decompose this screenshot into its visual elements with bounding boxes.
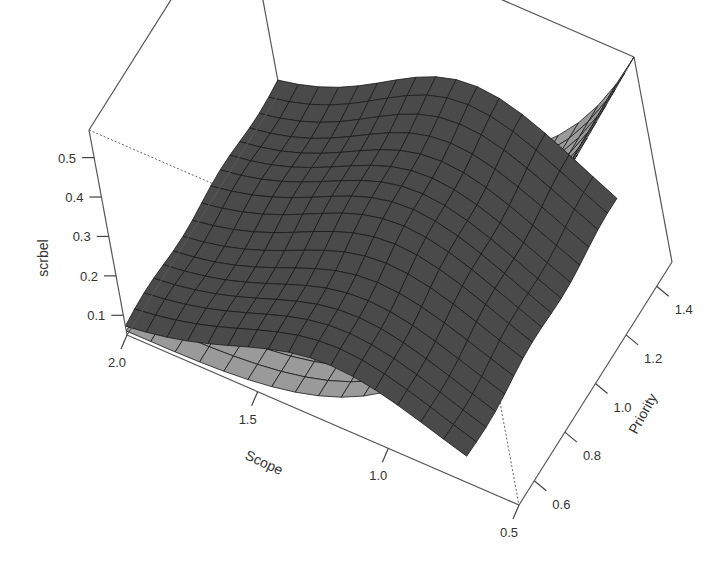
box-edge bbox=[242, 0, 634, 57]
z-tick-label: 0.4 bbox=[65, 190, 83, 205]
x-tick-label: 1.0 bbox=[369, 468, 387, 483]
box-edge bbox=[242, 0, 280, 92]
axis-tick bbox=[121, 335, 127, 349]
surface-facet bbox=[589, 84, 617, 122]
y-tick-label: 0.6 bbox=[552, 497, 570, 512]
axis-tick bbox=[626, 335, 638, 345]
axis-tick bbox=[382, 448, 388, 462]
axis-tick bbox=[513, 505, 519, 519]
surface-dark bbox=[125, 77, 617, 456]
y-tick-label: 1.2 bbox=[644, 351, 662, 366]
x-axis-title: Scope bbox=[243, 447, 286, 478]
box-edge bbox=[634, 57, 672, 262]
z-tick-label: 0.1 bbox=[87, 308, 105, 323]
z-axis-title: scrbel bbox=[35, 239, 51, 276]
y-tick-label: 0.8 bbox=[583, 448, 601, 463]
axis-tick bbox=[252, 392, 258, 406]
axis-tick bbox=[657, 286, 669, 296]
axis-tick bbox=[534, 481, 546, 491]
x-tick-label: 2.0 bbox=[108, 355, 126, 370]
box-edge bbox=[89, 0, 242, 130]
y-tick-label: 1.0 bbox=[614, 400, 632, 415]
x-tick-label: 1.5 bbox=[239, 412, 257, 427]
z-tick-label: 0.3 bbox=[73, 229, 91, 244]
y-tick-label: 1.4 bbox=[675, 302, 693, 317]
z-tick-label: 0.2 bbox=[80, 269, 98, 284]
axis-tick bbox=[596, 384, 608, 394]
axis-tick bbox=[565, 432, 577, 442]
box-edge bbox=[89, 130, 127, 335]
surface-plot: 0.10.20.30.40.52.01.51.00.50.60.81.01.21… bbox=[0, 0, 714, 574]
z-tick-label: 0.5 bbox=[58, 151, 76, 166]
x-tick-label: 0.5 bbox=[500, 525, 518, 540]
